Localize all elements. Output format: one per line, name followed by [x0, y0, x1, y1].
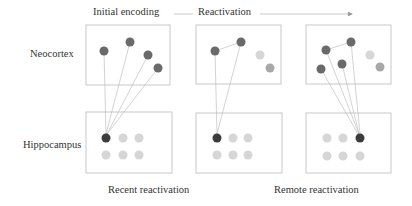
neocortex-node	[237, 38, 246, 47]
neocortex-node-faded	[266, 64, 275, 73]
neocortex-node-faded	[376, 63, 385, 72]
hippocampus-node	[102, 151, 111, 160]
hippocampus-box-remote	[306, 113, 391, 173]
hippocampus-node-active	[102, 134, 111, 143]
hippocampus-node	[323, 134, 332, 143]
neocortex-box-remote	[306, 25, 391, 84]
neocortex-node	[322, 46, 331, 55]
hippocampus-node	[244, 134, 253, 143]
hippocampus-node	[119, 134, 128, 143]
hippocampus-box-recent	[196, 113, 282, 173]
connections-remote	[321, 42, 360, 134]
neocortex-node-faded	[256, 51, 265, 60]
hippocampus-node	[323, 152, 332, 161]
hippocampus-node	[213, 151, 222, 160]
neocortex-node	[317, 65, 326, 74]
neocortex-node	[211, 47, 220, 56]
neocortex-node	[338, 60, 347, 69]
hippocampus-node	[244, 151, 253, 160]
hippocampus-node	[339, 134, 348, 143]
neocortex-box-initial	[86, 25, 170, 85]
neocortex-node	[144, 51, 153, 60]
hippocampus-box-initial	[86, 112, 172, 173]
hippocampus-node	[356, 152, 365, 161]
hippocampus-node	[229, 134, 238, 143]
connections-recent	[215, 42, 241, 134]
neocortex-node	[100, 47, 109, 56]
hippocampus-node	[339, 152, 348, 161]
hippocampus-node	[135, 134, 144, 143]
neocortex-node-faded	[366, 51, 375, 60]
hippocampus-node-active	[213, 134, 222, 143]
neocortex-node	[126, 38, 135, 47]
neocortex-box-recent	[196, 25, 281, 84]
hippocampus-node	[119, 151, 128, 160]
hippocampus-node	[229, 151, 238, 160]
hippocampus-node-active	[356, 134, 365, 143]
hippocampus-node	[135, 151, 144, 160]
memory-consolidation-diagram	[0, 0, 412, 206]
neocortex-node	[154, 64, 163, 73]
neocortex-node	[347, 38, 356, 47]
